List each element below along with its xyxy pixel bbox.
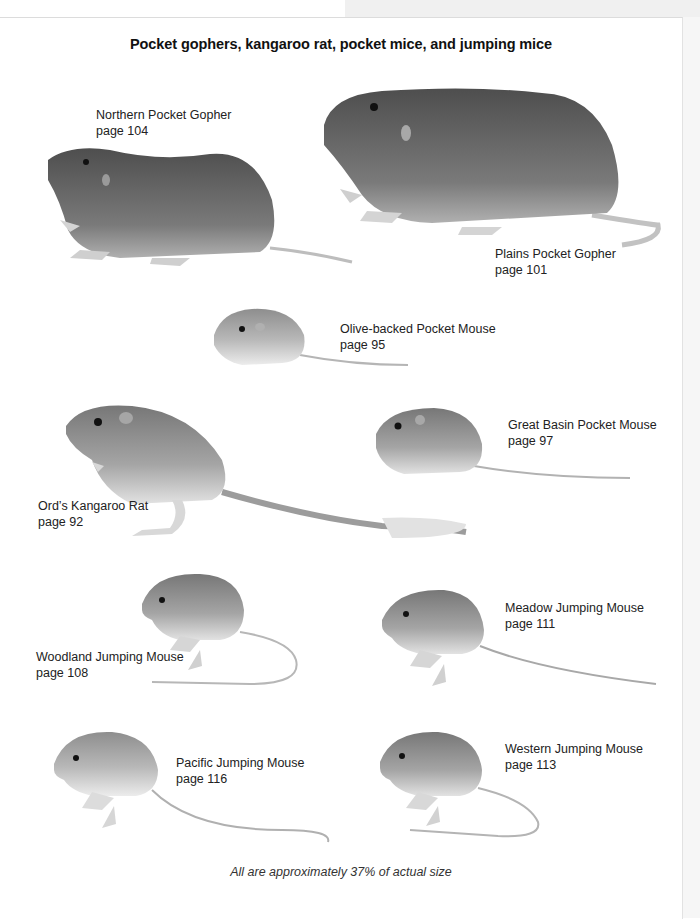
plains-pocket-gopher-illustration <box>322 85 662 245</box>
plate-title: Pocket gophers, kangaroo rat, pocket mic… <box>0 36 682 52</box>
species-name: Meadow Jumping Mouse <box>505 600 644 616</box>
species-name: Ord’s Kangaroo Rat <box>38 498 148 514</box>
species-name: Olive-backed Pocket Mouse <box>340 321 496 337</box>
scale-caption: All are approximately 37% of actual size <box>0 865 682 879</box>
species-name: Northern Pocket Gopher <box>96 107 232 123</box>
species-label-meadow-jumping-mouse: Meadow Jumping Mouse page 111 <box>505 600 644 632</box>
species-label-great-basin-pocket-mouse: Great Basin Pocket Mouse page 97 <box>508 417 657 449</box>
species-label-northern-pocket-gopher: Northern Pocket Gopher page 104 <box>96 107 232 139</box>
northern-pocket-gopher-illustration <box>40 140 360 270</box>
species-label-pacific-jumping-mouse: Pacific Jumping Mouse page 116 <box>176 755 305 787</box>
species-label-plains-pocket-gopher: Plains Pocket Gopher page 101 <box>495 246 616 278</box>
background-band-right <box>683 17 700 918</box>
species-page: page 92 <box>38 514 148 530</box>
species-name: Plains Pocket Gopher <box>495 246 616 262</box>
species-page: page 108 <box>36 665 184 681</box>
species-label-western-jumping-mouse: Western Jumping Mouse page 113 <box>505 741 643 773</box>
species-name: Pacific Jumping Mouse <box>176 755 305 771</box>
species-page: page 101 <box>495 262 616 278</box>
background-band-top <box>345 0 700 17</box>
species-name: Great Basin Pocket Mouse <box>508 417 657 433</box>
species-name: Western Jumping Mouse <box>505 741 643 757</box>
species-page: page 104 <box>96 123 232 139</box>
species-page: page 113 <box>505 757 643 773</box>
species-label-olive-backed-pocket-mouse: Olive-backed Pocket Mouse page 95 <box>340 321 496 353</box>
species-label-ords-kangaroo-rat: Ord’s Kangaroo Rat page 92 <box>38 498 148 530</box>
species-page: page 97 <box>508 433 657 449</box>
species-page: page 111 <box>505 616 644 632</box>
species-page: page 116 <box>176 771 305 787</box>
species-label-woodland-jumping-mouse: Woodland Jumping Mouse page 108 <box>36 649 184 681</box>
species-page: page 95 <box>340 337 496 353</box>
species-name: Woodland Jumping Mouse <box>36 649 184 665</box>
